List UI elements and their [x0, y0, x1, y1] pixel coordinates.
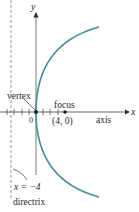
- directrix-equation-label: x = −4: [13, 182, 41, 192]
- focus-point: [63, 110, 67, 114]
- focus-label: focus: [54, 100, 75, 110]
- parabola-diagram: y x 0 vertex focus (4, 0) axis x = −4 di…: [0, 0, 139, 212]
- focus-coords-label: (4, 0): [52, 116, 73, 127]
- axis-label: axis: [96, 115, 112, 125]
- directrix-pointer: [13, 169, 27, 180]
- x-axis-label: x: [130, 106, 136, 117]
- y-axis-label: y: [30, 1, 36, 12]
- origin-label: 0: [29, 116, 33, 125]
- vertex-label: vertex: [7, 91, 31, 101]
- directrix-label: directrix: [13, 197, 45, 207]
- vertex-point: [34, 110, 38, 114]
